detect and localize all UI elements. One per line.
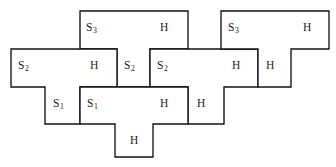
label-text: S bbox=[157, 59, 164, 71]
label-subscript: 2 bbox=[131, 64, 135, 73]
label-s1-left: S1 bbox=[53, 98, 64, 110]
label-s3-top-left: S3 bbox=[86, 22, 97, 34]
label-subscript: 1 bbox=[60, 102, 64, 111]
label-text: H bbox=[160, 21, 169, 33]
label-h-top-right: H bbox=[303, 22, 312, 34]
label-text: H bbox=[232, 59, 241, 71]
tiling-diagram: S3 H S3 H S2 H S2 S2 H H S1 S1 H H H bbox=[0, 0, 336, 167]
label-s3-top-right: S3 bbox=[228, 22, 239, 34]
label-subscript: 3 bbox=[235, 26, 239, 35]
label-text: S bbox=[86, 21, 93, 33]
label-h-mid-right: H bbox=[232, 60, 241, 72]
label-h-low-right: H bbox=[197, 98, 206, 110]
label-text: H bbox=[90, 59, 99, 71]
label-text: S bbox=[87, 97, 94, 109]
label-subscript: 2 bbox=[25, 64, 29, 73]
label-text: S bbox=[228, 21, 235, 33]
label-text: S bbox=[53, 97, 60, 109]
label-text: H bbox=[130, 134, 139, 146]
label-h-bottom: H bbox=[130, 135, 139, 147]
label-h-mid-left: H bbox=[90, 60, 99, 72]
label-s2-mid-right: S2 bbox=[157, 60, 168, 72]
label-h-top-left: H bbox=[160, 22, 169, 34]
label-subscript: 3 bbox=[93, 26, 97, 35]
label-s2-mid-left: S2 bbox=[124, 60, 135, 72]
label-text: H bbox=[303, 21, 312, 33]
label-text: H bbox=[160, 97, 169, 109]
label-text: S bbox=[18, 59, 25, 71]
label-subscript: 1 bbox=[94, 102, 98, 111]
label-h-low-mid: H bbox=[160, 98, 169, 110]
label-s1-right: S1 bbox=[87, 98, 98, 110]
label-s2-far-left: S2 bbox=[18, 60, 29, 72]
label-subscript: 2 bbox=[164, 64, 168, 73]
label-text: H bbox=[266, 59, 275, 71]
label-h-mid-far: H bbox=[266, 60, 275, 72]
label-text: S bbox=[124, 59, 131, 71]
label-text: H bbox=[197, 97, 206, 109]
